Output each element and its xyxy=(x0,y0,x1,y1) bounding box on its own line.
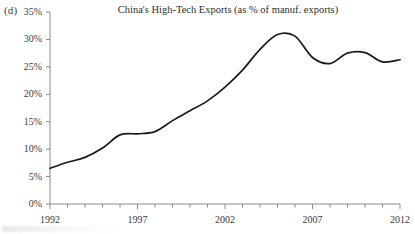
y-tick-label: 20% xyxy=(16,89,42,99)
y-axis xyxy=(46,12,50,204)
y-tick-label: 25% xyxy=(16,62,42,72)
x-tick-label: 2012 xyxy=(380,215,415,225)
y-tick-label: 0% xyxy=(16,199,42,209)
x-axis xyxy=(50,204,400,209)
y-tick-label: 35% xyxy=(16,7,42,17)
x-tick-label: 1992 xyxy=(30,215,70,225)
y-axis-ticks xyxy=(46,12,50,204)
data-series-line xyxy=(50,33,400,168)
y-tick-label: 10% xyxy=(16,144,42,154)
page-scan-artifact xyxy=(2,226,122,232)
x-tick-label: 2002 xyxy=(205,215,245,225)
y-tick-label: 30% xyxy=(16,34,42,44)
y-tick-label: 15% xyxy=(16,117,42,127)
x-tick-label: 1997 xyxy=(118,215,158,225)
y-tick-label: 5% xyxy=(16,172,42,182)
x-axis-ticks xyxy=(50,204,400,209)
x-tick-label: 2007 xyxy=(293,215,333,225)
